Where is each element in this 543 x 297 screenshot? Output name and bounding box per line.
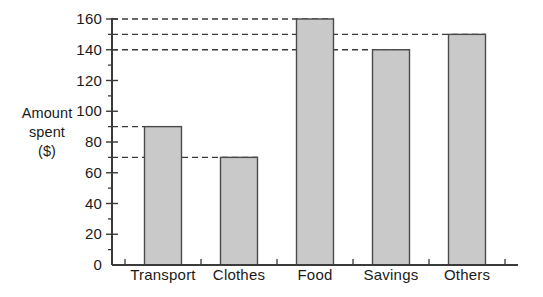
bar-others — [449, 34, 486, 265]
bar-chart: Amount spent ($) 020406080100120140160 T… — [0, 0, 543, 297]
bar-series — [145, 19, 486, 265]
bar-food — [297, 19, 334, 265]
bar-savings — [373, 50, 410, 265]
plot-area — [0, 0, 543, 297]
bar-transport — [145, 127, 182, 265]
bar-clothes — [221, 157, 258, 265]
